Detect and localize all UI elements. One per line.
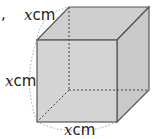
top-edge-label: xcm	[24, 6, 55, 24]
figure-marker: ,	[1, 5, 6, 23]
cube-diagram: , xcm xcm xcm	[0, 0, 154, 139]
left-edge-label: xcm	[5, 72, 36, 90]
bottom-edge-label: xcm	[64, 121, 95, 139]
